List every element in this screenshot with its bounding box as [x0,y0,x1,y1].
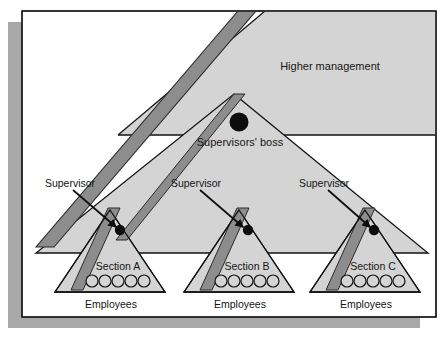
employee-circle [99,275,111,287]
label-section-b: Section B [225,260,270,272]
label-section-c: Section C [350,260,396,272]
supervisor-dot-b [243,225,253,235]
employee-circle [228,275,240,287]
employee-circle [241,275,253,287]
label-employees-c: Employees [340,298,392,310]
label-higher-management: Higher management [280,60,380,72]
employee-circle [367,275,379,287]
diagram-canvas: Higher management Supervisors' boss Supe… [0,0,445,341]
employee-circle [112,275,124,287]
employee-circle [341,275,353,287]
label-employees-b: Employees [214,298,266,310]
employee-circle [215,275,227,287]
label-employees-a: Employees [85,298,137,310]
employee-circle [86,275,98,287]
employee-circle [267,275,279,287]
employee-circle [125,275,137,287]
employee-circle [393,275,405,287]
employee-circles-section-b [215,275,279,287]
label-supervisor-left: Supervisor [45,177,96,189]
boss-dot [230,113,249,132]
employee-circles-section-a [86,275,150,287]
org-hierarchy-diagram: Higher management Supervisors' boss Supe… [0,0,445,341]
employee-circle [354,275,366,287]
label-section-a: Section A [96,260,140,272]
label-supervisor-right: Supervisor [299,177,350,189]
label-supervisor-middle: Supervisor [171,177,222,189]
employee-circle [254,275,266,287]
employee-circle [138,275,150,287]
employee-circles-section-c [341,275,405,287]
employee-circle [380,275,392,287]
label-supervisors-boss: Supervisors' boss [197,136,284,148]
